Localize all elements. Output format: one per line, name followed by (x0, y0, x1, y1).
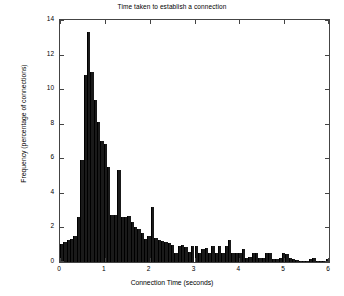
y-tick (60, 227, 64, 228)
x-tick-label: 6 (318, 265, 338, 272)
y-tick-right (325, 193, 329, 194)
y-tick (60, 193, 64, 194)
x-axis-label: Connection Time (seconds) (0, 279, 344, 286)
x-tick-top (284, 20, 285, 24)
y-axis-label: Frequency (percentage of connections) (20, 34, 27, 214)
y-tick (60, 261, 64, 262)
y-tick-label: 10 (32, 84, 54, 91)
x-tick-label: 3 (184, 265, 204, 272)
x-tick-top (195, 20, 196, 24)
x-tick (284, 258, 285, 262)
y-tick-right (325, 158, 329, 159)
plot-area (59, 19, 330, 263)
chart-title: Time taken to establish a connection (0, 3, 344, 10)
x-tick (195, 258, 196, 262)
y-tick-label: 2 (32, 222, 54, 229)
y-tick-right (325, 124, 329, 125)
x-tick-label: 4 (228, 265, 248, 272)
x-tick-label: 2 (139, 265, 159, 272)
x-tick-label: 1 (94, 265, 114, 272)
y-tick-right (325, 20, 329, 21)
y-tick (60, 124, 64, 125)
y-tick-right (325, 89, 329, 90)
x-tick (105, 258, 106, 262)
x-tick-top (239, 20, 240, 24)
x-tick-top (105, 20, 106, 24)
y-tick-right (325, 55, 329, 56)
x-tick (239, 258, 240, 262)
y-tick-label: 14 (32, 15, 54, 22)
y-tick (60, 158, 64, 159)
y-tick (60, 20, 64, 21)
y-tick-right (325, 261, 329, 262)
y-tick (60, 55, 64, 56)
y-tick-label: 4 (32, 188, 54, 195)
y-tick (60, 89, 64, 90)
y-tick-label: 0 (32, 257, 54, 264)
x-tick-label: 0 (49, 265, 69, 272)
y-tick-label: 8 (32, 119, 54, 126)
y-tick-label: 12 (32, 50, 54, 57)
x-tick (150, 258, 151, 262)
y-tick-right (325, 227, 329, 228)
x-tick-top (150, 20, 151, 24)
y-tick-label: 6 (32, 153, 54, 160)
bars-layer (60, 20, 329, 262)
x-tick-label: 5 (273, 265, 293, 272)
histogram-figure: Time taken to establish a connection 012… (0, 0, 344, 296)
